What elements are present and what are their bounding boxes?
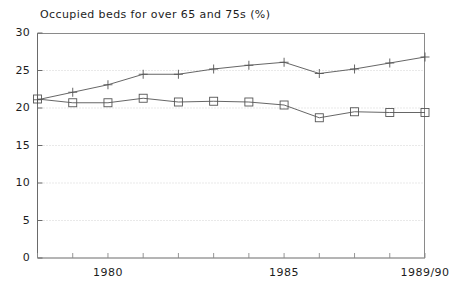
data-point-marker-plus [139, 70, 148, 79]
y-tick-label: 15 [4, 139, 30, 152]
y-tick-label: 10 [4, 176, 30, 189]
y-tick-label: 30 [4, 26, 30, 39]
y-tick-label: 25 [4, 64, 30, 77]
data-point-marker-plus [209, 65, 218, 74]
data-point-marker-plus [421, 53, 430, 62]
x-tick-label: 1989/90 [400, 266, 449, 279]
data-point-marker-plus [174, 70, 183, 79]
series-line-square [38, 98, 426, 118]
data-point-marker-plus [280, 58, 289, 67]
data-point-marker-plus [68, 88, 77, 97]
y-tick-label: 0 [4, 251, 30, 264]
gridlines [38, 71, 426, 221]
chart-container: Occupied beds for over 65 and 75s (%) 05… [0, 0, 465, 295]
series-line-plus [38, 57, 426, 100]
y-tick-marks [38, 33, 43, 258]
data-point-marker-plus [315, 69, 324, 78]
x-tick-marks [38, 253, 426, 258]
y-tick-label: 5 [4, 214, 30, 227]
series-layer [33, 53, 430, 122]
data-point-marker-plus [244, 61, 253, 70]
y-tick-label: 20 [4, 101, 30, 114]
data-point-marker-plus [103, 80, 112, 89]
data-point-marker-plus [350, 65, 359, 74]
x-tick-label: 1985 [269, 266, 299, 279]
data-point-marker-plus [385, 59, 394, 68]
x-tick-label: 1980 [93, 266, 123, 279]
plot-area [0, 0, 465, 295]
